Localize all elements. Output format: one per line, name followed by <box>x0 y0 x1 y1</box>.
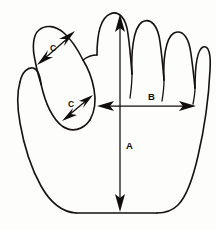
thumb-inner-outline <box>83 60 95 120</box>
dimension-c2-group: C <box>62 95 93 121</box>
hand-outline-group <box>18 13 210 213</box>
dimension-c2-arrowhead-upper <box>79 95 93 108</box>
hand-measurement-diagram: A B C C <box>0 0 216 230</box>
thumb-knuckle-outline <box>83 55 97 60</box>
dimension-a-group: A <box>115 14 133 212</box>
finger-crease-ring-little <box>193 88 195 104</box>
dimension-b-group: B <box>97 91 196 111</box>
dimension-c2-label: C <box>68 99 74 109</box>
finger-crease-middle-ring <box>162 80 164 101</box>
dimension-b-label: B <box>148 91 155 102</box>
finger-crease-index-middle <box>130 74 132 98</box>
little-finger-and-right-palm-outline <box>157 47 210 213</box>
index-finger-outline <box>97 13 132 74</box>
hand-diagram-svg: A B C C <box>0 0 216 230</box>
middle-finger-outline <box>132 21 164 80</box>
dimension-c1-group: C <box>37 31 75 65</box>
thumb-web-outline <box>33 26 83 84</box>
dimension-a-label: A <box>126 140 133 151</box>
dimension-c1-label: C <box>50 43 56 53</box>
thumb-body-outline <box>41 84 90 130</box>
ring-finger-outline <box>164 32 195 88</box>
